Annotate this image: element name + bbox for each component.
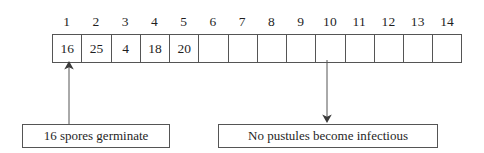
timeline-cell-5: 20 — [170, 35, 199, 62]
column-header-8: 8 — [257, 12, 286, 32]
timeline-cell-3: 4 — [112, 35, 141, 62]
timeline-diagram: 1 2 3 4 5 6 7 8 9 10 11 12 13 14 16 25 4… — [0, 0, 484, 153]
column-header-6: 6 — [198, 12, 227, 32]
timeline-cell-2: 25 — [82, 35, 111, 62]
timeline-cell-13 — [404, 35, 433, 62]
column-header-13: 13 — [403, 12, 432, 32]
timeline-cell-12 — [375, 35, 404, 62]
timeline-cell-1: 16 — [53, 35, 82, 62]
timeline-cell-10 — [316, 35, 345, 62]
timeline-cell-row: 16 25 4 18 20 — [52, 34, 462, 63]
column-header-3: 3 — [111, 12, 140, 32]
column-header-row: 1 2 3 4 5 6 7 8 9 10 11 12 13 14 — [52, 12, 462, 32]
timeline-cell-9 — [287, 35, 316, 62]
timeline-cell-4: 18 — [141, 35, 170, 62]
column-header-1: 1 — [52, 12, 81, 32]
down-arrow-icon — [316, 60, 338, 124]
timeline-cell-14 — [433, 35, 462, 62]
timeline-cell-8 — [258, 35, 287, 62]
column-header-2: 2 — [81, 12, 110, 32]
column-header-12: 12 — [374, 12, 403, 32]
column-header-4: 4 — [140, 12, 169, 32]
column-header-9: 9 — [286, 12, 315, 32]
timeline-cell-11 — [346, 35, 375, 62]
column-header-10: 10 — [315, 12, 344, 32]
column-header-14: 14 — [432, 12, 461, 32]
left-annotation-label: 16 spores germinate — [22, 124, 170, 148]
timeline-cell-6 — [199, 35, 228, 62]
timeline-cell-7 — [229, 35, 258, 62]
right-annotation-label: No pustules become infectious — [218, 124, 438, 148]
column-header-7: 7 — [228, 12, 257, 32]
column-header-11: 11 — [345, 12, 374, 32]
column-header-5: 5 — [169, 12, 198, 32]
up-arrow-icon — [58, 60, 80, 124]
